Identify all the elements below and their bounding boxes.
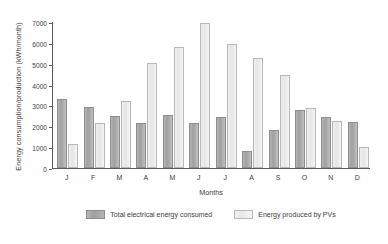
x-tick-label: O	[302, 174, 307, 181]
bar-produced	[332, 121, 342, 168]
y-tick-label: 1000	[32, 145, 47, 152]
bar-produced	[253, 58, 263, 168]
bar-consumed	[269, 130, 279, 168]
bar-group	[189, 22, 210, 168]
y-tick-label: 5000	[32, 61, 47, 68]
y-tick-mark	[49, 127, 52, 128]
y-tick-label: 4000	[32, 82, 47, 89]
bar-group	[269, 22, 290, 168]
legend-swatch	[86, 210, 105, 219]
bar-produced	[359, 147, 369, 168]
y-axis-title: Energy consumption/production (kWh/month…	[14, 17, 23, 177]
bar-produced	[306, 108, 316, 168]
y-tick-mark	[49, 106, 52, 107]
bar-consumed	[321, 117, 331, 168]
bar-produced	[227, 44, 237, 168]
chart-legend: Total electrical energy consumedEnergy p…	[52, 210, 370, 219]
bar-consumed	[216, 117, 226, 168]
bar-produced	[200, 23, 210, 168]
bar-produced	[68, 144, 78, 168]
x-tick-label: A	[144, 174, 149, 181]
x-tick-label: M	[117, 174, 123, 181]
x-tick-label: J	[223, 174, 227, 181]
x-tick-label: J	[197, 174, 201, 181]
legend-label: Energy produced by PVs	[258, 211, 335, 218]
x-tick-label: F	[91, 174, 95, 181]
bar-produced	[174, 47, 184, 168]
y-tick-label: 0	[43, 166, 47, 173]
bar-group	[348, 22, 369, 168]
bar-group	[163, 22, 184, 168]
x-tick-label: D	[355, 174, 360, 181]
y-tick-mark	[49, 44, 52, 45]
y-tick-mark	[49, 169, 52, 170]
bar-consumed	[163, 115, 173, 168]
bar-group	[136, 22, 157, 168]
x-axis-line	[52, 168, 370, 169]
x-tick-label: N	[328, 174, 333, 181]
x-tick-label: S	[276, 174, 281, 181]
bar-consumed	[136, 123, 146, 168]
bar-group	[57, 22, 78, 168]
bar-produced	[280, 75, 290, 168]
bar-group	[110, 22, 131, 168]
x-tick-label: J	[65, 174, 69, 181]
bar-group	[216, 22, 237, 168]
x-axis-title: Months	[52, 188, 370, 197]
plot-area: 01000200030004000500060007000 JFMAMJJASO…	[52, 22, 370, 169]
bar-chart-figure: Energy consumption/production (kWh/month…	[0, 0, 388, 244]
bar-consumed	[189, 123, 199, 168]
bar-group	[84, 22, 105, 168]
y-tick-label: 6000	[32, 40, 47, 47]
bar-group	[242, 22, 263, 168]
legend-label: Total electrical energy consumed	[110, 211, 212, 218]
bar-consumed	[84, 107, 94, 168]
bar-produced	[121, 101, 131, 168]
y-tick-mark	[49, 86, 52, 87]
legend-item: Energy produced by PVs	[234, 210, 335, 219]
y-tick-label: 3000	[32, 103, 47, 110]
x-tick-label: M	[169, 174, 175, 181]
y-tick-mark	[49, 23, 52, 24]
bar-group-container	[53, 22, 370, 168]
bar-group	[321, 22, 342, 168]
bar-consumed	[295, 110, 305, 168]
bar-produced	[95, 123, 105, 168]
y-tick-mark	[49, 148, 52, 149]
bar-consumed	[110, 116, 120, 168]
y-tick-mark	[49, 65, 52, 66]
y-tick-label: 2000	[32, 124, 47, 131]
y-tick-label: 7000	[32, 20, 47, 27]
bar-consumed	[242, 151, 252, 168]
bar-consumed	[348, 122, 358, 168]
legend-swatch	[234, 210, 253, 219]
bar-group	[295, 22, 316, 168]
bar-consumed	[57, 99, 67, 168]
bar-produced	[147, 63, 157, 168]
x-tick-label: A	[249, 174, 254, 181]
legend-item: Total electrical energy consumed	[86, 210, 212, 219]
